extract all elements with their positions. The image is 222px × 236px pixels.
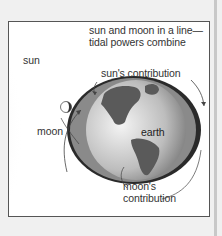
sun-contribution-label: sun's contribution — [101, 67, 181, 79]
page-edge-strip — [214, 0, 217, 236]
earth-label: earth — [141, 126, 164, 138]
title-line-1: sun and moon in a line— — [89, 24, 203, 36]
diagram-frame: sun and moon in a line— tidal powers com… — [8, 21, 210, 217]
sun-glow — [9, 62, 29, 202]
moon-contribution-label-1: moon's — [123, 180, 156, 192]
tides-illustration — [9, 22, 210, 217]
moon-contribution-label-2: contribution — [123, 192, 176, 204]
sun-label: sun — [23, 54, 40, 66]
moon-label: moon — [37, 125, 63, 137]
title-line-2: tidal powers combine — [89, 36, 186, 48]
